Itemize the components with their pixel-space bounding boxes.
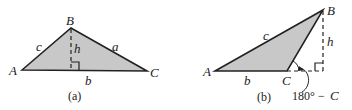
- vertex-label-b-B: B: [327, 3, 335, 18]
- triangle-b: [215, 10, 323, 71]
- height-label-a: h: [74, 41, 81, 56]
- figure-a: A B C c a b h (a): [8, 13, 159, 103]
- triangle-diagrams: A B C c a b h (a) A B C c b h (b) 180° −…: [0, 0, 352, 110]
- angle-label-minus: −: [318, 89, 325, 103]
- side-label-b-c: c: [263, 28, 269, 43]
- vertex-label-b-C: C: [282, 73, 291, 88]
- arrowhead: [298, 66, 304, 71]
- side-label-b-b: b: [244, 73, 251, 88]
- right-angle-marker-b: [315, 63, 323, 71]
- vertex-label-a-B: B: [66, 13, 74, 28]
- exterior-angle-arc: [293, 61, 299, 71]
- caption-b: (b): [257, 90, 271, 104]
- angle-label-C: C: [330, 88, 339, 103]
- angle-label-180: 180°: [292, 89, 315, 103]
- side-label-a-b: b: [85, 73, 92, 88]
- vertex-label-b-A: A: [202, 64, 211, 79]
- side-label-a-c: c: [36, 39, 42, 54]
- vertex-label-a-C: C: [150, 65, 159, 80]
- caption-a: (a): [68, 89, 81, 103]
- figure-b: A B C c b h (b) 180° − C: [202, 3, 339, 104]
- height-label-b: h: [327, 34, 334, 49]
- side-label-a-a: a: [112, 39, 119, 54]
- vertex-label-a-A: A: [8, 63, 17, 78]
